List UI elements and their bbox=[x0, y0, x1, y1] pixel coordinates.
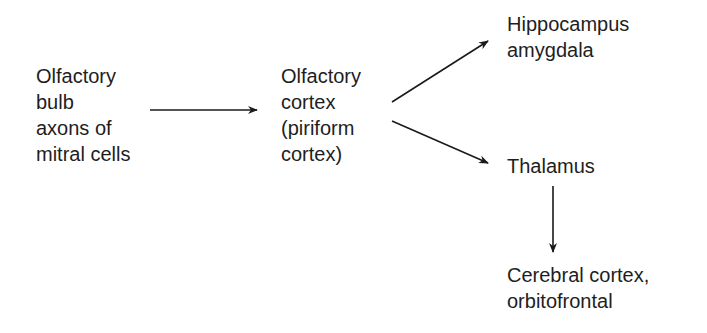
node-line: cortex bbox=[281, 89, 361, 115]
node-line: (piriform bbox=[281, 115, 361, 141]
node-line: Olfactory bbox=[281, 63, 361, 89]
node-line: cortex) bbox=[281, 141, 361, 167]
node-line: axons of bbox=[36, 115, 130, 141]
node-hippocampus-amygdala: Hippocampus amygdala bbox=[507, 11, 629, 63]
node-thalamus: Thalamus bbox=[507, 153, 595, 179]
arrow-cortex-to-thalamus bbox=[392, 121, 488, 163]
node-line: orbitofrontal bbox=[507, 288, 649, 314]
node-line: amygdala bbox=[507, 37, 629, 63]
node-olfactory-cortex: Olfactory cortex (piriform cortex) bbox=[281, 63, 361, 167]
node-line: bulb bbox=[36, 89, 130, 115]
node-line: mitral cells bbox=[36, 141, 130, 167]
node-line: Hippocampus bbox=[507, 11, 629, 37]
arrow-cortex-to-hippocampus bbox=[392, 41, 488, 102]
node-line: Thalamus bbox=[507, 153, 595, 179]
node-line: Cerebral cortex, bbox=[507, 262, 649, 288]
node-line: Olfactory bbox=[36, 63, 130, 89]
node-olfactory-bulb: Olfactory bulb axons of mitral cells bbox=[36, 63, 130, 167]
node-cerebral-cortex: Cerebral cortex, orbitofrontal bbox=[507, 262, 649, 314]
